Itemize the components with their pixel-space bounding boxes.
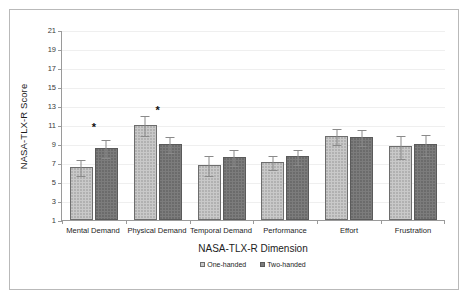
error-bar-cap-top — [293, 150, 302, 151]
y-tick-label: 17 — [48, 65, 56, 73]
x-tick-label: Temporal Demand — [189, 226, 253, 235]
legend-item[interactable]: One-handed — [200, 261, 246, 268]
bar-group — [381, 31, 445, 220]
y-tick-label: 9 — [52, 141, 56, 149]
error-bar — [336, 129, 337, 145]
error-bar — [234, 150, 235, 166]
figure-root: NASA-TLX-R Score 13579111315171921 ** Me… — [0, 0, 468, 299]
error-bar-cap-top — [141, 116, 150, 117]
bar-group: * — [62, 31, 126, 220]
bar-column — [70, 31, 93, 220]
error-bar-cap-bottom — [268, 170, 277, 171]
legend-label: Two-handed — [267, 261, 306, 268]
error-bar — [425, 135, 426, 157]
y-tick-label: 1 — [52, 217, 56, 225]
x-tick-mark — [317, 220, 318, 224]
legend-swatch-icon — [260, 262, 265, 267]
error-bar — [81, 160, 82, 176]
error-bar-cap-bottom — [141, 136, 150, 137]
error-bar-cap-top — [421, 135, 430, 136]
bar-groups: ** — [62, 31, 445, 220]
bar-column — [134, 31, 157, 220]
error-bar-cap-bottom — [205, 176, 214, 177]
significance-asterisk: * — [156, 105, 160, 116]
legend-label: One-handed — [207, 261, 246, 268]
y-tick-label: 11 — [48, 122, 56, 130]
error-bar-cap-top — [77, 160, 86, 161]
error-bar-cap-top — [332, 129, 341, 130]
x-tick-label: Frustration — [381, 226, 445, 235]
bar-pair — [253, 31, 317, 220]
error-bar-cap-top — [268, 156, 277, 157]
error-bar-cap-bottom — [77, 176, 86, 177]
bar-column — [198, 31, 221, 220]
error-bar-cap-top — [230, 150, 239, 151]
bar-column — [286, 31, 309, 220]
y-tick-label: 21 — [48, 27, 56, 35]
error-bar-cap-bottom — [396, 159, 405, 160]
error-bar-cap-bottom — [102, 158, 111, 159]
error-bar — [145, 116, 146, 137]
x-tick-label: Mental Demand — [61, 226, 125, 235]
y-tick-label: 3 — [52, 198, 56, 206]
x-tick-mark — [444, 220, 445, 224]
x-tick-mark — [381, 220, 382, 224]
bar-column — [223, 31, 246, 220]
bar-group — [317, 31, 381, 220]
x-tick-label: Performance — [253, 226, 317, 235]
legend: One-handedTwo-handed — [61, 261, 445, 268]
bar-column — [159, 31, 182, 220]
bar-column — [325, 31, 348, 220]
error-bar — [272, 156, 273, 170]
error-bar-cap-bottom — [332, 145, 341, 146]
x-tick-label: Physical Demand — [125, 226, 189, 235]
y-tick-label: 19 — [48, 46, 56, 54]
error-bar-cap-bottom — [357, 146, 366, 147]
x-tick-mark — [62, 220, 63, 224]
legend-item[interactable]: Two-handed — [260, 261, 306, 268]
error-bar-cap-bottom — [293, 165, 302, 166]
error-bar-cap-top — [166, 137, 175, 138]
error-bar-cap-bottom — [166, 153, 175, 154]
x-tick-mark — [190, 220, 191, 224]
x-tick-mark — [126, 220, 127, 224]
x-axis-title: NASA-TLX-R Dimension — [61, 243, 445, 254]
y-tick-label: 7 — [52, 160, 56, 168]
error-bar — [106, 140, 107, 158]
bar-column — [350, 31, 373, 220]
error-bar-cap-bottom — [421, 156, 430, 157]
y-tick-label: 13 — [48, 103, 56, 111]
error-bar — [170, 137, 171, 153]
x-tick-label: Effort — [317, 226, 381, 235]
error-bar-cap-top — [357, 130, 366, 131]
bar-one-handed[interactable] — [325, 136, 348, 220]
x-tick-labels: Mental DemandPhysical DemandTemporal Dem… — [61, 226, 445, 235]
bar-group — [253, 31, 317, 220]
bar-column — [389, 31, 412, 220]
y-tick-label: 15 — [48, 84, 56, 92]
bar-pair — [381, 31, 445, 220]
bar-one-handed[interactable] — [134, 125, 157, 220]
x-tick-mark — [253, 220, 254, 224]
error-bar-cap-bottom — [230, 166, 239, 167]
plot-area: 13579111315171921 ** — [61, 31, 445, 221]
error-bar-cap-top — [102, 140, 111, 141]
bar-group: * — [126, 31, 190, 220]
error-bar-cap-top — [396, 136, 405, 137]
error-bar — [209, 156, 210, 176]
bar-pair — [190, 31, 254, 220]
bar-column — [95, 31, 118, 220]
bar-column — [261, 31, 284, 220]
y-axis-title: NASA-TLX-R Score — [17, 31, 31, 221]
y-axis-title-text: NASA-TLX-R Score — [19, 83, 30, 169]
y-tick-label: 5 — [52, 179, 56, 187]
bar-pair — [317, 31, 381, 220]
bar-two-handed[interactable] — [350, 137, 373, 220]
legend-swatch-icon — [200, 262, 205, 267]
bar-column — [414, 31, 437, 220]
significance-asterisk: * — [92, 122, 96, 133]
bar-group — [190, 31, 254, 220]
error-bar — [361, 130, 362, 146]
error-bar — [297, 150, 298, 165]
bar-two-handed[interactable] — [159, 144, 182, 220]
